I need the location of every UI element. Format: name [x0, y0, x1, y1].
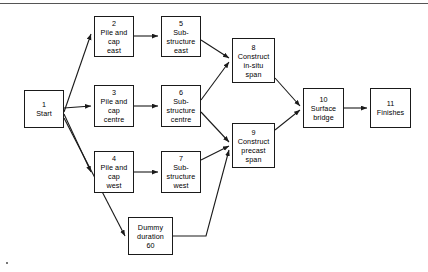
node-label-line: Construct — [238, 52, 270, 61]
node-label-line: cap — [108, 106, 120, 115]
node-label-line: Sub- — [173, 28, 189, 37]
node-label-line: Pile and — [101, 97, 128, 106]
edge-n1-to-n2 — [64, 34, 91, 112]
node-label-line: cap — [108, 37, 120, 46]
node-number: 3 — [112, 88, 116, 97]
node-number: 1 — [42, 100, 46, 109]
node-number: 4 — [112, 154, 116, 163]
edge-group — [64, 34, 367, 236]
node-n9[interactable]: 9Constructprecastspan — [232, 123, 275, 168]
node-label-line: east — [174, 46, 188, 55]
node-dummy[interactable]: Dummyduration60 — [128, 217, 173, 255]
node-label-line: cap — [108, 172, 120, 181]
node-label-line: structure — [167, 172, 196, 181]
node-label-line: span — [246, 70, 262, 79]
node-label-line: Finishes — [377, 108, 405, 117]
node-label-line: Surface — [311, 104, 336, 113]
node-number: 10 — [319, 95, 327, 104]
node-number: 8 — [251, 43, 255, 52]
node-n10[interactable]: 10Surfacebridge — [303, 88, 344, 128]
node-label-line: Construct — [238, 137, 270, 146]
node-n2[interactable]: 2Pile andcapeast — [94, 16, 134, 57]
node-label-line: structure — [167, 37, 196, 46]
node-label-line: bridge — [313, 113, 334, 122]
diagram-canvas: 1Start2Pile andcapeast3Pile andcapcentre… — [0, 0, 428, 272]
node-n1[interactable]: 1Start — [24, 90, 64, 128]
node-label-line: 60 — [146, 241, 154, 250]
node-label-line: east — [107, 46, 121, 55]
node-n5[interactable]: 5Sub-structureeast — [161, 16, 201, 57]
node-label-line: centre — [171, 115, 192, 124]
node-number: 5 — [179, 19, 183, 28]
node-label-line: Dummy — [138, 223, 163, 232]
node-label-line: Pile and — [101, 163, 128, 172]
node-label-line: west — [106, 181, 121, 190]
edge-n1-to-n3 — [64, 106, 91, 108]
scan-artifact-speck — [6, 262, 8, 264]
node-label-line: Sub- — [173, 97, 189, 106]
node-n7[interactable]: 7Sub-structurewest — [161, 151, 201, 193]
node-number: 2 — [112, 19, 116, 28]
edge-n9-to-n10 — [275, 110, 300, 130]
node-label-line: span — [246, 155, 262, 164]
node-label-line: Start — [36, 109, 52, 118]
node-number: 6 — [179, 88, 183, 97]
node-label-line: Pile and — [101, 28, 128, 37]
node-label-line: duration — [137, 232, 164, 241]
edge-n5-to-n8 — [201, 40, 229, 58]
node-label-line: precast — [241, 146, 265, 155]
edge-n6-to-n8 — [201, 62, 229, 100]
node-number: 7 — [179, 154, 183, 163]
node-label-line: structure — [167, 106, 196, 115]
node-label-line: in-situ — [244, 61, 264, 70]
node-label-line: west — [173, 181, 188, 190]
node-n11[interactable]: 11Finishes — [370, 88, 411, 128]
edge-n7-to-n9 — [201, 146, 229, 160]
node-n8[interactable]: 8Constructin-situspan — [232, 38, 275, 83]
node-number: 9 — [251, 128, 255, 137]
node-n4[interactable]: 4Pile andcapwest — [94, 151, 134, 193]
node-number: 11 — [387, 99, 395, 108]
node-n6[interactable]: 6Sub-structurecentre — [161, 85, 201, 127]
node-label-line: centre — [104, 115, 125, 124]
edge-n8-to-n10 — [275, 78, 300, 106]
edge-n6-to-n9 — [201, 112, 229, 142]
edge-layer — [0, 0, 428, 272]
node-label-line: Sub- — [173, 163, 189, 172]
node-n3[interactable]: 3Pile andcapcentre — [94, 85, 134, 127]
